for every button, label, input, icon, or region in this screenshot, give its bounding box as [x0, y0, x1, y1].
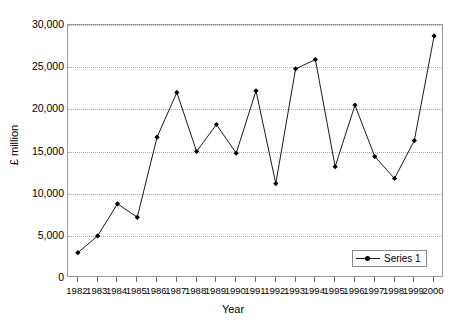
legend-series-marker-icon	[356, 254, 380, 264]
x-axis-tick	[295, 277, 296, 282]
x-axis-tick	[136, 277, 137, 282]
x-axis-tick	[235, 277, 236, 282]
chart-legend: Series 1	[352, 250, 427, 267]
x-axis-tick	[374, 277, 375, 282]
data-point	[313, 57, 318, 62]
x-axis-tick	[215, 277, 216, 282]
y-axis-tick-label: 10,000	[20, 188, 64, 198]
x-axis-tick	[116, 277, 117, 282]
x-axis-tick	[413, 277, 414, 282]
y-axis-tick-label: 25,000	[20, 61, 64, 71]
x-axis-tick	[77, 277, 78, 282]
x-axis-tick	[394, 277, 395, 282]
y-axis-title-text: £ million	[8, 125, 20, 165]
x-axis-tick	[255, 277, 256, 282]
y-axis-tick-label: 20,000	[20, 103, 64, 113]
data-point	[154, 135, 159, 140]
x-axis-tick	[433, 277, 434, 282]
series-1-line	[68, 25, 444, 278]
x-axis-tick	[176, 277, 177, 282]
x-axis-tick	[354, 277, 355, 282]
legend-series-label: Series 1	[384, 253, 421, 264]
x-axis-tick-labels: 1982198319841985198619871988198919901991…	[0, 285, 466, 299]
y-axis-tick-label: 30,000	[20, 19, 64, 29]
x-axis-tick-label: 2000	[413, 285, 453, 297]
data-point	[333, 164, 338, 169]
plot-inner	[68, 25, 442, 276]
x-axis-ticks	[0, 277, 466, 285]
x-axis-tick	[334, 277, 335, 282]
data-point	[412, 138, 417, 143]
x-axis-tick	[156, 277, 157, 282]
line-chart: £ million 05,00010,00015,00020,00025,000…	[0, 0, 466, 332]
data-point	[273, 181, 278, 186]
x-axis-tick	[196, 277, 197, 282]
x-axis-tick	[97, 277, 98, 282]
data-point	[174, 90, 179, 95]
x-axis-title: Year	[0, 303, 466, 315]
x-axis-tick	[314, 277, 315, 282]
y-axis-tick-label: 15,000	[20, 146, 64, 156]
data-point	[432, 33, 437, 38]
y-axis-tick-label: 5,000	[20, 230, 64, 240]
plot-area	[67, 24, 443, 277]
data-point	[293, 66, 298, 71]
data-point	[253, 88, 258, 93]
x-axis-tick	[275, 277, 276, 282]
data-point	[352, 103, 357, 108]
